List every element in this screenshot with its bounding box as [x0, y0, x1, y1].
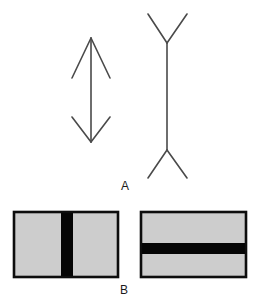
panel-b-group — [14, 212, 246, 277]
panel-a-group — [72, 14, 187, 178]
arrow-outward-fin-top-right — [91, 38, 110, 78]
figure-canvas: A B — [0, 0, 258, 303]
arrow-inward-fin-bottom-left — [148, 150, 167, 178]
arrow-inward-fin-bottom-right — [167, 150, 187, 178]
panel-label-b: B — [117, 284, 131, 296]
arrow-inward-fins — [148, 14, 187, 178]
arrow-inward-fin-top-left — [148, 14, 167, 43]
panel-label-a: A — [118, 180, 132, 192]
rect-horizontal-bar — [141, 212, 246, 277]
arrow-outward-fins — [72, 38, 110, 142]
arrow-inward-fin-top-right — [167, 14, 187, 43]
rect-vertical-bar — [14, 212, 118, 277]
arrow-outward-fin-bottom-right — [91, 117, 110, 142]
arrow-outward-fin-bottom-left — [72, 117, 91, 142]
rect-horizontal-bar-black-bar — [141, 243, 246, 254]
illusion-figure-svg — [0, 0, 258, 303]
rect-vertical-bar-black-bar — [61, 212, 73, 277]
arrow-outward-fin-top-left — [72, 38, 91, 78]
